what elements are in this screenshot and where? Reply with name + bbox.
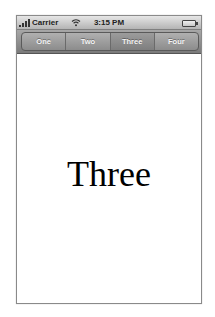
segment-one[interactable]: One bbox=[22, 33, 66, 50]
toolbar: One Two Three Four bbox=[17, 30, 201, 54]
segment-three[interactable]: Three bbox=[111, 33, 155, 50]
segment-four[interactable]: Four bbox=[155, 33, 198, 50]
battery-icon bbox=[182, 20, 196, 27]
clock-time: 3:15 PM bbox=[17, 18, 201, 27]
phone-screen: Carrier 3:15 PM One Two Three Four Three bbox=[16, 15, 202, 304]
segment-two[interactable]: Two bbox=[66, 33, 110, 50]
status-bar: Carrier 3:15 PM bbox=[17, 16, 201, 30]
content-area: Three bbox=[17, 54, 201, 303]
selected-segment-label: Three bbox=[67, 153, 151, 195]
segmented-control: One Two Three Four bbox=[21, 32, 199, 51]
